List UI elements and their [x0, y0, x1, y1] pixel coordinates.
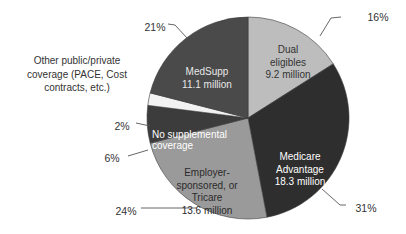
slice-label-line: Other public/private: [34, 55, 121, 66]
slice-label-line: Tricare: [192, 192, 223, 203]
percent-label-medsupp: 21%: [144, 21, 165, 33]
leader-line-medsupp: [168, 24, 187, 38]
slice-label-line: eligibles: [270, 57, 306, 68]
slice-label-medsupp: MedSupp11.1 million: [182, 66, 232, 90]
slice-label-line: MedSupp: [186, 66, 229, 77]
slice-label-line: Medicare: [279, 151, 321, 162]
slice-label-line: 9.2 million: [265, 69, 310, 80]
slice-label-line: Employer-: [184, 167, 230, 178]
leader-line-nosupp: [128, 150, 148, 156]
slice-label-line: Advantage: [276, 164, 324, 175]
slice-label-ma: MedicareAdvantage18.3 million: [275, 151, 326, 187]
percent-label-ma: 31%: [355, 202, 376, 214]
slice-label-line: Dual: [278, 44, 299, 55]
slice-label-line: coverage (PACE, Cost: [27, 69, 127, 80]
pie-chart: Dualeligibles9.2 millionMedicareAdvantag…: [0, 0, 406, 234]
slice-label-line: 11.1 million: [182, 79, 232, 90]
leader-line-ma: [322, 189, 346, 205]
slice-label-line: sponsored, or: [176, 180, 238, 191]
percent-label-other: 2%: [114, 120, 129, 132]
slice-label-line: contracts, etc.): [44, 82, 110, 93]
slice-label-other: Other public/privatecoverage (PACE, Cost…: [27, 55, 127, 93]
percent-label-nosupp: 6%: [104, 152, 119, 164]
percent-label-employer: 24%: [115, 205, 136, 217]
slice-label-line: 18.3 million: [275, 176, 326, 187]
percent-label-dual: 16%: [367, 11, 388, 23]
slice-label-line: No supplemental: [152, 129, 227, 140]
leader-line-dual: [320, 17, 341, 36]
slice-label-line: coverage: [152, 140, 194, 151]
slice-label-line: 13.6 million: [182, 205, 233, 216]
